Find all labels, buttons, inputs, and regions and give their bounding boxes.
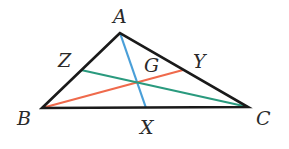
label-a: A	[111, 5, 127, 27]
label-x: X	[138, 116, 155, 138]
label-g: G	[144, 54, 159, 76]
label-z: Z	[57, 49, 72, 71]
label-c: C	[256, 107, 271, 129]
triangle-diagram: A B C X Y Z G	[0, 0, 289, 149]
median-a-x	[120, 33, 146, 108]
label-y: Y	[193, 50, 208, 72]
diagram-stage: A B C X Y Z G	[0, 0, 289, 149]
label-b: B	[16, 107, 31, 129]
